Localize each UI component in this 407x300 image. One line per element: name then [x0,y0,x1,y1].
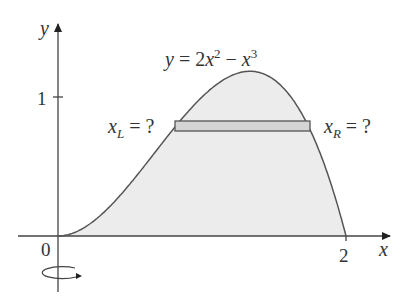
diagram-canvas: y 1 0 2 x y = 2x2 − x3 xL = ? xR = ? [0,0,407,300]
xr-rest: = ? [341,115,371,137]
origin-label: 0 [41,240,51,259]
rotation-arrow-icon [42,267,82,279]
xl-var: x [108,115,117,137]
eq-lhs: y [165,48,174,70]
x-axis-label: x [379,239,388,259]
xr-var: x [324,115,333,137]
eq-x1: x [205,48,214,70]
eq-eq: = 2 [174,48,205,70]
y-axis-label: y [40,18,49,38]
eq-exp2: 3 [251,46,258,61]
horizontal-strip [175,121,310,131]
eq-minus: − [221,48,242,70]
xr-sub: R [333,126,341,141]
x-tick-label: 2 [339,246,349,265]
equation-label: y = 2x2 − x3 [165,47,257,69]
y-tick-label: 1 [37,89,47,108]
x-left-label: xL = ? [108,116,154,140]
eq-x2: x [242,48,251,70]
x-right-label: xR = ? [324,116,371,140]
xl-rest: = ? [124,115,154,137]
